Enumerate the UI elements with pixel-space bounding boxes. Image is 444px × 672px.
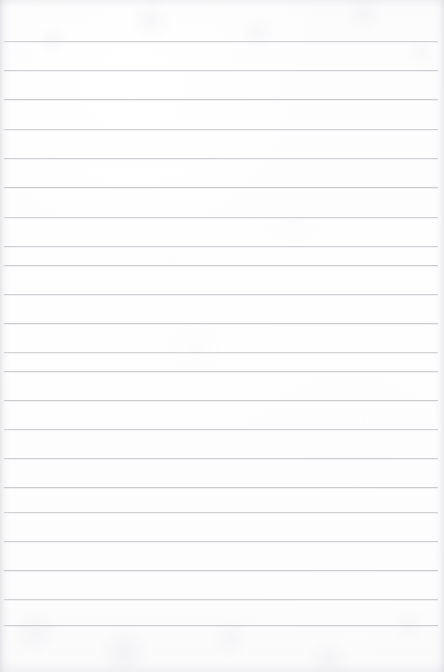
ruled-line [4,625,438,626]
ruled-line [4,70,438,71]
ruled-line [4,187,438,188]
lined-paper-page [0,0,444,672]
ruled-line [4,265,438,266]
ruled-line [4,217,438,218]
paper-speck [172,262,174,264]
ruled-line [4,599,438,600]
ruled-lines-layer [0,0,444,672]
page-edge-shadow-left [0,0,10,672]
paper-speck [234,530,236,532]
paper-speck [338,175,340,177]
ruled-line [4,400,438,401]
ruled-line [4,570,438,571]
ruled-line [4,429,438,430]
ruled-line [4,41,438,42]
ruled-line [4,371,438,372]
page-edge-shadow-top [0,0,444,8]
paper-speck [276,58,278,60]
ruled-line [4,487,438,488]
paper-speck [300,610,302,612]
ruled-line [4,541,438,542]
ruled-line [4,158,438,159]
ruled-line [4,323,438,324]
page-edge-shadow-bottom [0,662,444,672]
ruled-line [4,129,438,130]
page-edge-shadow-right [434,0,444,672]
paper-speck [78,175,80,177]
paper-speck [118,350,120,352]
ruled-line [4,99,438,100]
ruled-line [4,294,438,295]
ruled-line [4,458,438,459]
ruled-line [4,246,438,247]
paper-speck [363,418,365,420]
paper-speck [160,133,162,135]
paper-speck [52,470,54,472]
ruled-line [4,352,438,353]
ruled-line [4,512,438,513]
